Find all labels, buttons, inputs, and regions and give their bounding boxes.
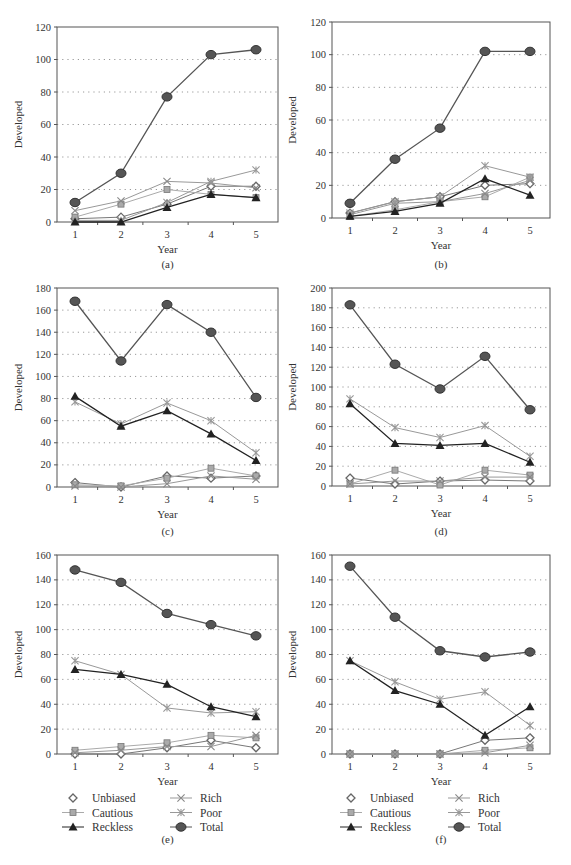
y-tick-label: 100 [310, 382, 326, 393]
total-marker-icon [162, 609, 172, 617]
x-tick-label: 4 [482, 761, 488, 772]
x-axis-label: Year [431, 775, 452, 787]
legend-label: Rich [200, 792, 222, 804]
poor-marker-icon [71, 657, 78, 664]
poor-marker-icon [481, 422, 488, 429]
series-line [350, 566, 530, 657]
total-marker-icon [454, 823, 464, 831]
legend-item-unbiased: Unbiased [69, 792, 136, 804]
unbiased-marker-icon [526, 734, 534, 742]
x-tick-label: 5 [253, 229, 258, 240]
poor-marker-icon [252, 166, 259, 173]
x-tick-label: 2 [392, 761, 397, 772]
x-tick-label: 1 [347, 493, 352, 504]
reckless-marker-icon [526, 702, 535, 710]
total-marker-icon [162, 300, 172, 308]
cautious-marker-icon [118, 201, 124, 207]
legend-label: Reckless [370, 821, 411, 833]
y-tick-label: 40 [316, 441, 327, 452]
poor-marker-icon [252, 449, 259, 456]
y-axis-label: Developed [12, 630, 24, 678]
x-tick-label: 5 [527, 225, 532, 236]
legend: UnbiasedCautiousRecklessRichPoorTotal [340, 792, 501, 833]
x-tick-label: 4 [208, 494, 214, 505]
y-tick-label: 60 [316, 674, 327, 685]
panel-caption: (f) [436, 833, 447, 846]
x-tick-label: 4 [208, 229, 214, 240]
series-poor [346, 395, 533, 460]
poor-marker-icon [207, 178, 214, 185]
series-line [75, 396, 256, 460]
x-tick-label: 3 [164, 229, 169, 240]
cautious-marker-icon [392, 467, 398, 473]
y-tick-label: 20 [316, 724, 327, 735]
total-marker-icon [525, 406, 535, 414]
series-reckless [71, 392, 261, 464]
y-tick-label: 120 [310, 17, 326, 28]
cautious-marker-icon [208, 465, 214, 471]
x-tick-label: 2 [392, 225, 397, 236]
y-tick-label: 0 [321, 481, 326, 492]
panel-caption: (a) [161, 258, 174, 271]
x-axis-label: Year [431, 507, 452, 519]
x-tick-label: 1 [72, 761, 77, 772]
legend-item-rich: Rich [448, 792, 500, 804]
legend-item-unbiased: Unbiased [347, 792, 414, 804]
cautious-marker-icon [253, 473, 259, 479]
reckless-marker-icon [481, 731, 490, 739]
y-tick-label: 20 [316, 461, 327, 472]
figure-canvas: 02040608010012012345YearDeveloped(a)0204… [0, 0, 571, 865]
x-tick-label: 2 [118, 229, 123, 240]
total-marker-icon [206, 328, 216, 336]
total-marker-icon [70, 566, 80, 574]
total-marker-icon [435, 124, 445, 132]
legend-item-cautious: Cautious [340, 807, 411, 819]
cautious-marker-icon [482, 467, 488, 473]
y-tick-label: 140 [35, 574, 51, 585]
y-tick-label: 100 [35, 624, 51, 635]
chart-panel-b: 02040608010012012345YearDeveloped(b) [286, 17, 550, 272]
x-tick-label: 3 [437, 225, 442, 236]
x-axis-label: Year [157, 508, 178, 520]
reckless-marker-icon [481, 174, 490, 182]
y-tick-label: 160 [35, 305, 51, 316]
cautious-marker-icon [118, 483, 124, 489]
reckless-marker-icon [71, 665, 80, 673]
y-tick-label: 20 [41, 184, 52, 195]
total-marker-icon [435, 385, 445, 393]
chart-panel-d: 02040608010012014016018020012345YearDeve… [286, 283, 550, 539]
y-tick-label: 100 [310, 49, 326, 60]
total-marker-icon [70, 198, 80, 206]
total-marker-icon [162, 93, 172, 101]
legend-item-rich: Rich [170, 792, 222, 804]
plot-frame [57, 288, 278, 487]
unbiased-marker-icon [252, 182, 260, 190]
reckless-marker-icon [391, 686, 400, 694]
legend-item-reckless: Reckless [340, 821, 411, 833]
series-total [345, 47, 535, 207]
y-tick-label: 40 [41, 437, 52, 448]
total-marker-icon [116, 169, 126, 177]
total-marker-icon [206, 50, 216, 58]
y-tick-label: 180 [35, 283, 51, 294]
y-tick-label: 100 [35, 54, 51, 65]
x-tick-label: 3 [164, 494, 169, 505]
series-line [350, 661, 530, 726]
chart-panel-e: 02040608010012014016012345YearDeveloped(… [12, 550, 278, 847]
total-marker-icon [525, 648, 535, 656]
series-reckless [346, 399, 535, 465]
y-tick-label: 160 [310, 322, 326, 333]
x-tick-label: 2 [392, 493, 397, 504]
legend-label: Poor [478, 807, 500, 819]
y-tick-label: 0 [46, 749, 51, 760]
y-tick-label: 60 [41, 119, 52, 130]
total-marker-icon [176, 823, 186, 831]
total-marker-icon [390, 155, 400, 163]
y-tick-label: 140 [310, 342, 326, 353]
total-marker-icon [480, 47, 490, 55]
unbiased-marker-icon [481, 181, 489, 189]
y-tick-label: 100 [310, 624, 326, 635]
legend-item-cautious: Cautious [62, 807, 133, 819]
y-tick-label: 40 [316, 699, 327, 710]
x-tick-label: 4 [208, 761, 214, 772]
